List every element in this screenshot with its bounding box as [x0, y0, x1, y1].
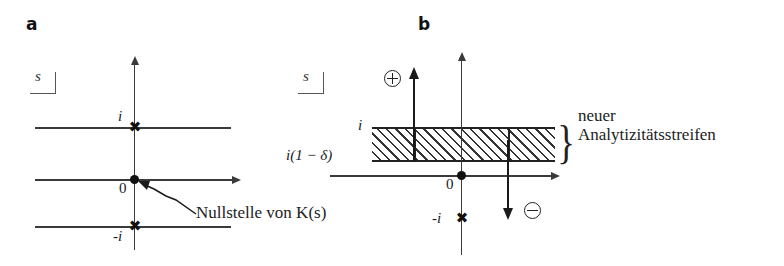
real-axis-arrowhead-icon [551, 172, 560, 180]
plus-circle-icon [384, 70, 401, 87]
strip-caption-line1: neuer [578, 106, 616, 125]
minus-flow-arrow-shaft [507, 140, 509, 210]
imaginary-axis-arrowhead-icon [458, 52, 466, 61]
label-strip-top-i: i [358, 117, 362, 134]
plus-flow-arrow-shaft [413, 78, 415, 162]
strip-brace-icon: } [557, 120, 575, 166]
panel-a: a s ✖ ✖ i 0 -i Nullstelle von K(s) [0, 0, 392, 266]
plane-label-s: s [303, 68, 309, 85]
panel-b-letter: b [418, 16, 430, 33]
zero-dot-marker-icon [457, 171, 466, 180]
label-strip-bottom-i-one-minus-delta: i(1 − δ) [286, 147, 332, 164]
strip-caption-line2: Analytizitätsstreifen [578, 125, 716, 144]
plus-flow-arrowhead-icon [409, 67, 419, 79]
figure-complex-plane-analyticity-strip: a s ✖ ✖ i 0 -i Nullstelle von K(s) b [0, 0, 784, 266]
label-lower-minus-i: -i [432, 210, 441, 227]
analyticity-strip [372, 127, 555, 162]
nullstelle-callout-arrow-icon [0, 0, 392, 266]
panel-b-plane-label: s [298, 68, 332, 98]
nullstelle-annotation: Nullstelle von K(s) [196, 203, 326, 222]
label-origin-zero: 0 [446, 176, 454, 193]
plane-corner-bracket-icon [298, 72, 324, 94]
minus-flow-arrowhead-icon [503, 208, 513, 220]
minus-circle-icon [524, 202, 541, 219]
cross-marker-lower-icon: ✖ [455, 211, 469, 225]
line-real-axis [330, 175, 552, 177]
panel-b: b s 0 ✖ -i i i(1 − δ) } [392, 0, 784, 266]
